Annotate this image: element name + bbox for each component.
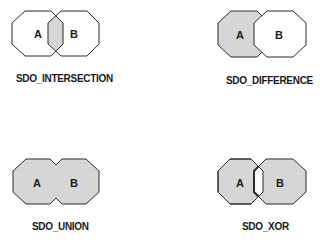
- caption-union: SDO_UNION: [32, 221, 89, 232]
- label-b: B: [276, 177, 284, 189]
- panel-intersection: A B SDO_INTERSECTION: [12, 11, 113, 84]
- caption-xor: SDO_XOR: [242, 221, 290, 232]
- label-b: B: [70, 28, 78, 40]
- caption-intersection: SDO_INTERSECTION: [16, 73, 113, 84]
- label-b: B: [275, 29, 283, 41]
- label-a: A: [236, 177, 244, 189]
- label-b: B: [70, 177, 78, 189]
- panel-xor: A B SDO_XOR: [218, 159, 306, 232]
- union-region: [13, 159, 99, 204]
- label-a: A: [33, 177, 41, 189]
- caption-difference: SDO_DIFFERENCE: [226, 75, 314, 86]
- panel-difference: A B SDO_DIFFERENCE: [218, 11, 314, 86]
- spatial-operators-diagram: A B SDO_INTERSECTION A B SDO_DIFFERENCE …: [0, 0, 322, 248]
- label-a: A: [236, 29, 244, 41]
- panel-union: A B SDO_UNION: [13, 159, 99, 232]
- label-a: A: [34, 28, 42, 40]
